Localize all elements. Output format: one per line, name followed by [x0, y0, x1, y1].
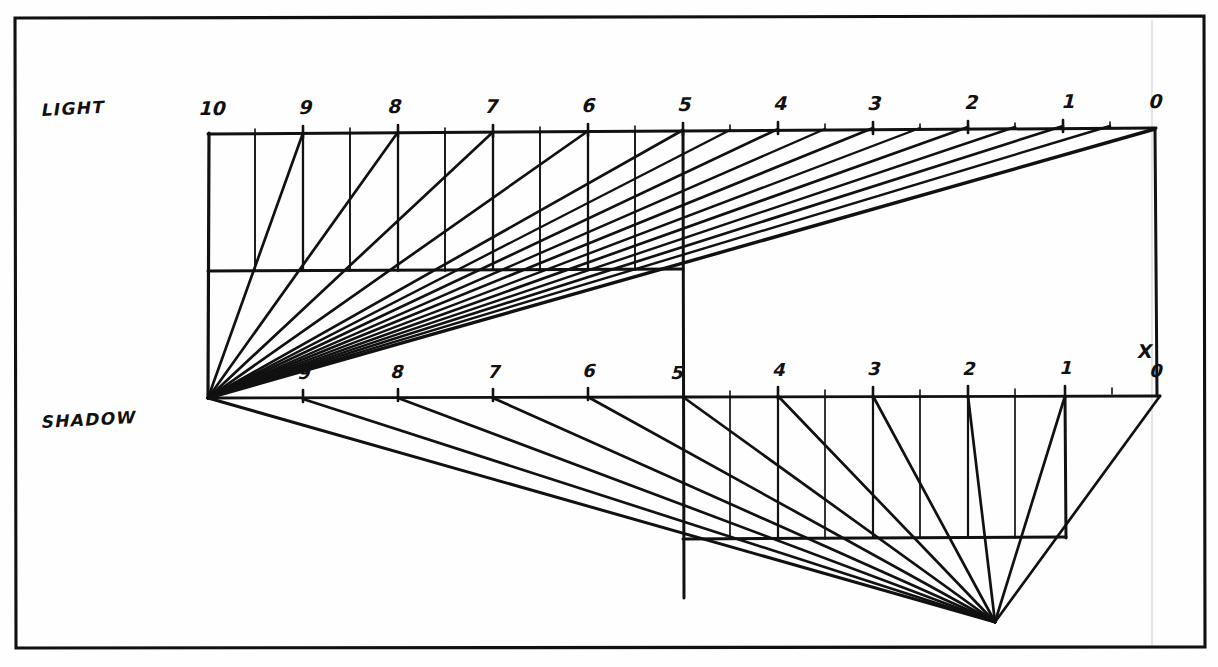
diagram-svg — [0, 0, 1218, 667]
shadow-rays — [303, 396, 1160, 622]
shadow-ray-1 — [995, 396, 1065, 622]
sheet-border — [15, 16, 1205, 648]
drawing-sheet: LIGHT SHADOW X 10 9 8 7 6 5 4 3 2 1 0 9 … — [0, 0, 1218, 667]
shadow-band-right-edge — [1065, 396, 1066, 538]
label-light: LIGHT — [40, 97, 107, 120]
shadow-ray-2 — [968, 396, 995, 622]
shadow-vertex-ray — [208, 398, 995, 622]
shadow-ray-8 — [398, 398, 995, 622]
diagram-page: LIGHT SHADOW X 10 9 8 7 6 5 4 3 2 1 0 9 … — [0, 0, 1218, 667]
light-tick-label-10: 10 — [197, 97, 229, 119]
shadow-ray-0 — [995, 396, 1160, 622]
light-half-dividers — [255, 131, 635, 271]
light-left-edge — [208, 133, 209, 398]
light-right-edge — [1155, 129, 1157, 396]
